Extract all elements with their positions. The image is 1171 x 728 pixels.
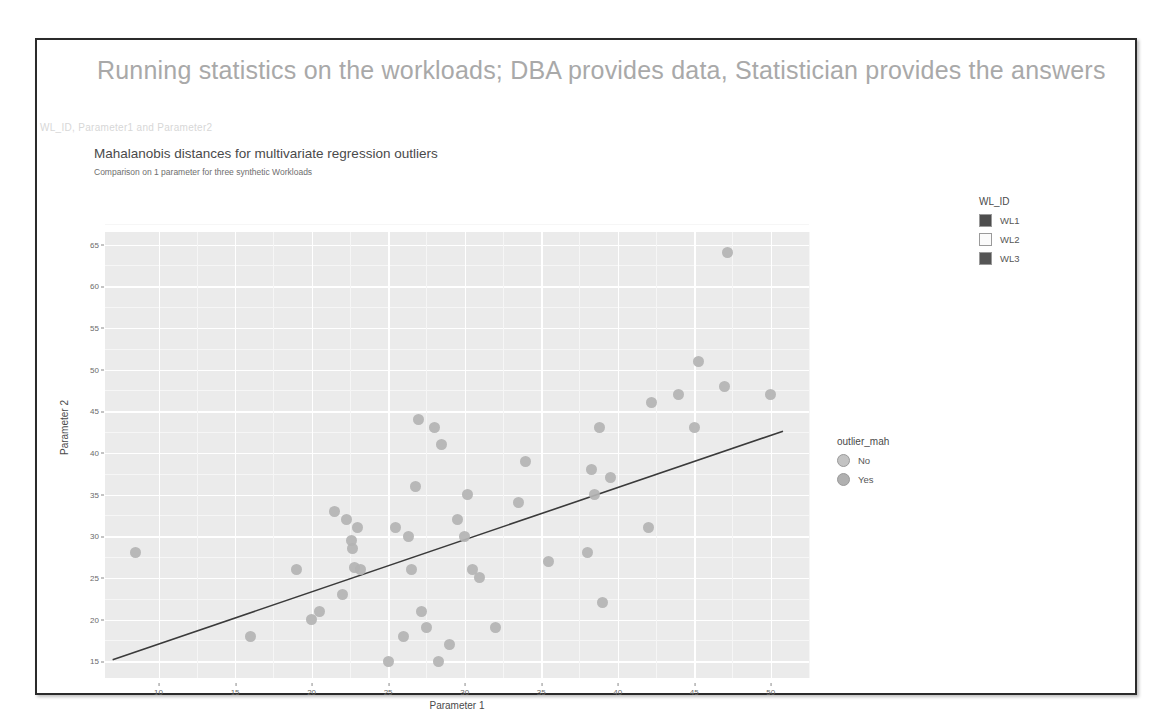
y-axis-label: Parameter 2 — [59, 400, 70, 455]
legend-outlier-mah-title: outlier_mah — [837, 436, 889, 447]
y-axis-tick-label: 30 — [90, 532, 99, 541]
scatter-point — [597, 597, 608, 608]
plot-panel — [105, 232, 809, 678]
scatter-point — [416, 606, 427, 617]
legend-wl-id-label: WL3 — [1000, 253, 1020, 264]
legend-outlier-mah-swatch-icon — [837, 473, 850, 486]
scatter-point — [543, 556, 554, 567]
legend-outlier-mah-label: Yes — [858, 474, 874, 485]
legend-outlier-mah-label: No — [858, 455, 870, 466]
scatter-point — [245, 631, 256, 642]
scatter-point — [314, 606, 325, 617]
scatter-point — [594, 422, 605, 433]
scatter-point — [444, 639, 455, 650]
x-axis-tick-label: 10 — [154, 688, 163, 697]
y-axis-tick-label: 25 — [90, 573, 99, 582]
scatter-point — [341, 514, 352, 525]
scatter-point — [646, 397, 657, 408]
y-axis-tick-label: 15 — [90, 657, 99, 666]
y-axis-tick-label: 20 — [90, 615, 99, 624]
scatter-point — [520, 456, 531, 467]
y-axis-tick-label: 55 — [90, 323, 99, 332]
scatter-point — [355, 564, 366, 575]
chart-title: Mahalanobis distances for multivariate r… — [94, 146, 438, 161]
legend-wl-id-title: WL_ID — [979, 196, 1020, 207]
scatter-point — [429, 422, 440, 433]
scatter-point — [490, 622, 501, 633]
scatter-point — [398, 631, 409, 642]
screenshot-root: Running statistics on the workloads; DBA… — [0, 0, 1171, 728]
scatter-point — [436, 439, 447, 450]
x-axis-label: Parameter 1 — [429, 700, 484, 711]
scatter-point — [462, 489, 473, 500]
scatter-point — [337, 589, 348, 600]
x-axis-tick-label: 50 — [766, 688, 775, 697]
slide-frame: Running statistics on the workloads; DBA… — [35, 38, 1137, 695]
scatter-point — [459, 531, 470, 542]
scatter-point — [689, 422, 700, 433]
y-axis-tick-label: 65 — [90, 240, 99, 249]
chart-subtitle: Comparison on 1 parameter for three synt… — [94, 167, 312, 177]
slide-title: Running statistics on the workloads; DBA… — [97, 56, 1097, 85]
legend-wl-id-swatch-icon — [979, 214, 992, 227]
x-axis-tick-label: 45 — [690, 688, 699, 697]
gridline-horizontal-minor — [105, 224, 809, 225]
scatter-point — [406, 564, 417, 575]
legend-outlier-mah-items: NoYes — [837, 454, 889, 486]
y-axis-tick-label: 50 — [90, 365, 99, 374]
scatter-point — [403, 531, 414, 542]
legend-wl-id-label: WL2 — [1000, 234, 1020, 245]
chart-figure: Mahalanobis distances for multivariate r… — [61, 140, 1121, 685]
y-axis-tick-label: 45 — [90, 407, 99, 416]
x-axis-tick-label: 35 — [537, 688, 546, 697]
legend-wl-id: WL_ID WL1WL2WL3 — [979, 196, 1020, 271]
scatter-point — [605, 472, 616, 483]
scatter-point — [421, 622, 432, 633]
faint-caption: WL_ID, Parameter1 and Parameter2 — [40, 122, 212, 133]
scatter-point — [582, 547, 593, 558]
legend-wl-id-swatch-icon — [979, 233, 992, 246]
scatter-point — [347, 543, 358, 554]
y-axis-tick-label: 60 — [90, 282, 99, 291]
x-axis-tick-label: 25 — [384, 688, 393, 697]
legend-outlier-mah-item[interactable]: Yes — [837, 473, 889, 486]
x-axis-tick-label: 15 — [231, 688, 240, 697]
legend-outlier-mah-item[interactable]: No — [837, 454, 889, 467]
scatter-point — [513, 497, 524, 508]
legend-wl-id-label: WL1 — [1000, 215, 1020, 226]
scatter-point — [329, 506, 340, 517]
legend-wl-id-item[interactable]: WL2 — [979, 233, 1020, 246]
scatter-point — [765, 389, 776, 400]
y-axis-tick-label: 35 — [90, 490, 99, 499]
x-axis-tick-label: 40 — [613, 688, 622, 697]
scatter-point — [383, 656, 394, 667]
legend-outlier-mah: outlier_mah NoYes — [837, 436, 889, 492]
gridline-vertical-minor — [809, 232, 810, 678]
scatter-point — [452, 514, 463, 525]
scatter-point — [693, 356, 704, 367]
scatter-point — [474, 572, 485, 583]
y-axis-tick-label: 40 — [90, 448, 99, 457]
scatter-point — [643, 522, 654, 533]
scatter-points — [105, 232, 809, 678]
scatter-point — [433, 656, 444, 667]
scatter-point — [586, 464, 597, 475]
legend-wl-id-item[interactable]: WL1 — [979, 214, 1020, 227]
scatter-point — [291, 564, 302, 575]
legend-wl-id-swatch-icon — [979, 252, 992, 265]
scatter-point — [352, 522, 363, 533]
scatter-point — [589, 489, 600, 500]
legend-outlier-mah-swatch-icon — [837, 454, 850, 467]
x-axis-tick-label: 20 — [307, 688, 316, 697]
legend-wl-id-items: WL1WL2WL3 — [979, 214, 1020, 265]
scatter-point — [390, 522, 401, 533]
legend-wl-id-item[interactable]: WL3 — [979, 252, 1020, 265]
scatter-point — [722, 247, 733, 258]
scatter-point — [410, 481, 421, 492]
x-axis-tick-label: 30 — [460, 688, 469, 697]
scatter-point — [413, 414, 424, 425]
scatter-point — [719, 381, 730, 392]
scatter-point — [130, 547, 141, 558]
scatter-point — [673, 389, 684, 400]
